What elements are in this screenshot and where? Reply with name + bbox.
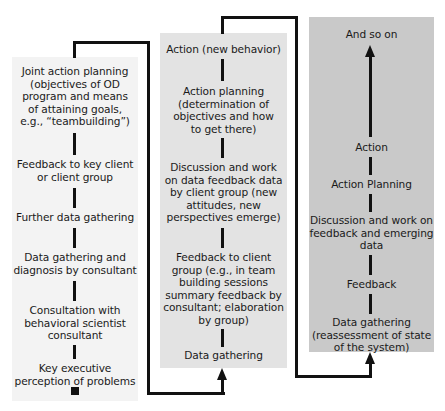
step-feedback-client-group: Feedback to client group (e.g., in team … bbox=[160, 251, 287, 327]
step-line: Data gathering bbox=[309, 316, 434, 329]
step-data-gathering-reassessment: Data gathering (reassessment of state of… bbox=[309, 316, 434, 354]
step-line: objectives and how bbox=[160, 110, 287, 123]
step-line: building sessions bbox=[160, 276, 287, 289]
step-line: attitudes, new bbox=[160, 199, 287, 212]
connector-line bbox=[221, 59, 224, 81]
step-line: on data feedback data bbox=[160, 174, 287, 187]
connector-line bbox=[221, 329, 224, 347]
start-marker-square bbox=[71, 387, 79, 395]
step-line: Discussion and work on bbox=[309, 214, 434, 227]
step-further-data-gathering: Further data gathering bbox=[12, 211, 138, 224]
step-action-planning: Action planning (determination of object… bbox=[160, 85, 287, 135]
connector-line bbox=[369, 294, 372, 314]
connector-line bbox=[73, 345, 76, 359]
step-action-planning-2: Action Planning bbox=[309, 178, 434, 191]
step-line: behavioral scientist bbox=[12, 317, 138, 330]
step-line: Feedback to client bbox=[160, 251, 287, 264]
loop-connector-2-down bbox=[295, 16, 298, 378]
step-line: to get there) bbox=[160, 123, 287, 136]
connector-line bbox=[221, 138, 224, 158]
connector-line bbox=[73, 281, 76, 301]
step-line: of attaining goals, bbox=[12, 103, 138, 116]
loop-connector-1-up bbox=[73, 42, 76, 58]
step-feedback: Feedback bbox=[309, 278, 434, 291]
loop-connector-2-up bbox=[221, 17, 224, 34]
loop-connector-1-bottom bbox=[147, 392, 225, 395]
step-line: by client group (new bbox=[160, 186, 287, 199]
connector-line bbox=[73, 133, 76, 155]
step-line: Action planning bbox=[160, 85, 287, 98]
step-key-executive-perception: Key executive perception of problems bbox=[12, 362, 138, 387]
step-line: Action (new behavior) bbox=[160, 43, 287, 56]
connector-line bbox=[221, 228, 224, 248]
cycle-2-panel: Action (new behavior) Action planning (d… bbox=[160, 33, 287, 368]
step-data-gathering: Data gathering bbox=[160, 349, 287, 362]
step-line: (reassessment of state bbox=[309, 329, 434, 342]
step-discussion-work: Discussion and work on data feedback dat… bbox=[160, 161, 287, 224]
step-line: And so on bbox=[309, 28, 434, 41]
loop-connector-2-rise bbox=[369, 362, 372, 378]
step-line: Consultation with bbox=[12, 304, 138, 317]
step-line: feedback and emerging bbox=[309, 227, 434, 240]
step-line: group (e.g., in team bbox=[160, 264, 287, 277]
step-line: by group) bbox=[160, 314, 287, 327]
arrow-up-icon bbox=[217, 368, 227, 380]
cycle-3-panel: And so on Action Action Planning Discuss… bbox=[309, 17, 434, 352]
loop-connector-1-rise bbox=[221, 378, 224, 395]
cycle-1-panel: Joint action planning (objectives of OD … bbox=[12, 57, 138, 401]
step-line: e.g., “teambuilding”) bbox=[12, 115, 138, 128]
arrow-up-icon bbox=[365, 352, 375, 364]
step-and-so-on: And so on bbox=[309, 28, 434, 41]
step-line: Data gathering and bbox=[12, 251, 138, 264]
step-consultation: Consultation with behavioral scientist c… bbox=[12, 304, 138, 342]
connector-line bbox=[369, 157, 372, 175]
step-line: data bbox=[309, 239, 434, 252]
step-line: Discussion and work bbox=[160, 161, 287, 174]
step-discussion-feedback: Discussion and work on feedback and emer… bbox=[309, 214, 434, 252]
loop-connector-2-top bbox=[221, 16, 298, 19]
connector-line bbox=[369, 55, 372, 137]
step-action: Action bbox=[309, 141, 434, 154]
step-line: diagnosis by consultant bbox=[12, 264, 138, 277]
step-action-new-behavior: Action (new behavior) bbox=[160, 43, 287, 56]
step-line: Key executive bbox=[12, 362, 138, 375]
connector-line bbox=[369, 194, 372, 212]
loop-connector-2-bottom bbox=[295, 375, 372, 378]
step-line: perspectives emerge) bbox=[160, 211, 287, 224]
step-line: Feedback to key client bbox=[12, 158, 138, 171]
step-line: Action Planning bbox=[309, 178, 434, 191]
step-line: program and means bbox=[12, 90, 138, 103]
connector-line bbox=[73, 228, 76, 248]
step-line: Joint action planning bbox=[12, 65, 138, 78]
step-feedback-key-client: Feedback to key client or client group bbox=[12, 158, 138, 183]
step-line: Action bbox=[309, 141, 434, 154]
step-line: perception of problems bbox=[12, 375, 138, 388]
step-line: Feedback bbox=[309, 278, 434, 291]
connector-line bbox=[73, 188, 76, 208]
step-line: (determination of bbox=[160, 98, 287, 111]
step-data-gathering-diagnosis: Data gathering and diagnosis by consulta… bbox=[12, 251, 138, 276]
step-joint-action-planning: Joint action planning (objectives of OD … bbox=[12, 65, 138, 128]
step-line: summary feedback by bbox=[160, 289, 287, 302]
step-line: consultant bbox=[12, 329, 138, 342]
step-line: consultant; elaboration bbox=[160, 301, 287, 314]
step-line: (objectives of OD bbox=[12, 78, 138, 91]
connector-line bbox=[369, 255, 372, 275]
step-line: or client group bbox=[12, 171, 138, 184]
step-line: Further data gathering bbox=[12, 211, 138, 224]
step-line: Data gathering bbox=[160, 349, 287, 362]
loop-connector-1-down bbox=[147, 41, 150, 395]
loop-connector-1-top bbox=[73, 41, 150, 44]
